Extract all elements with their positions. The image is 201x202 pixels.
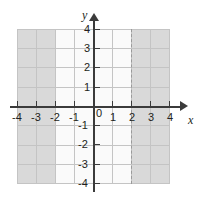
y-tick-label-3: 3	[84, 43, 90, 54]
x-axis-tick	[169, 101, 170, 106]
x-axis-tick	[131, 101, 132, 106]
y-axis-tick	[95, 67, 100, 68]
y-tick-label--4: -4	[78, 178, 88, 189]
x-axis-tick	[74, 101, 75, 106]
x-axis-tick	[55, 101, 56, 106]
y-axis-label: y	[82, 8, 87, 23]
y-axis-tick	[95, 164, 100, 165]
y-axis	[93, 20, 95, 192]
y-axis-tick	[95, 29, 100, 30]
y-tick-label-1: 1	[84, 82, 90, 93]
y-tick-label-4: 4	[84, 24, 90, 35]
y-axis-arrow-icon	[89, 13, 99, 21]
x-tick-label--3: -3	[31, 112, 41, 123]
y-axis-tick	[95, 125, 100, 126]
coordinate-plane-figure: -4 -3 -2 -1 1 2 3 4 4 3 2 1 -1 -2 -3 -4 …	[0, 0, 201, 202]
x-axis-label: x	[188, 113, 193, 128]
x-tick-label--4: -4	[12, 112, 22, 123]
y-tick-label--2: -2	[78, 139, 88, 150]
x-tick-label-4: 4	[167, 112, 173, 123]
y-axis-tick	[95, 48, 100, 49]
x-axis-tick	[150, 101, 151, 106]
x-tick-label-3: 3	[148, 112, 154, 123]
y-tick-label--3: -3	[78, 159, 88, 170]
y-axis-tick	[95, 87, 100, 88]
y-axis-tick	[95, 144, 100, 145]
x-axis-arrow-icon	[180, 101, 188, 111]
y-tick-label-2: 2	[84, 62, 90, 73]
x-axis-tick	[17, 101, 18, 106]
x-tick-label-1: 1	[110, 112, 116, 123]
origin-label: 0	[96, 108, 102, 119]
x-tick-label-2: 2	[129, 112, 135, 123]
y-axis-tick	[95, 183, 100, 184]
y-tick-label--1: -1	[78, 120, 88, 131]
x-axis-tick	[112, 101, 113, 106]
x-axis-tick	[36, 101, 37, 106]
x-tick-label--2: -2	[50, 112, 60, 123]
